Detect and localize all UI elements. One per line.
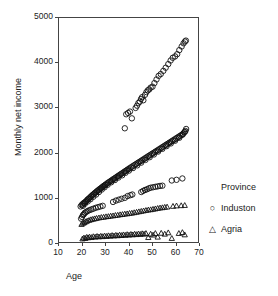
legend-title: Province (221, 182, 256, 192)
y-tick-label: 0 (23, 237, 53, 247)
data-point (180, 176, 185, 181)
x-tick-label: 50 (142, 247, 162, 257)
x-tick-label: 70 (189, 247, 209, 257)
y-tick-label: 1000 (23, 192, 53, 202)
scatter-plot-canvas (59, 18, 200, 244)
y-tick-label: 3000 (23, 101, 53, 111)
legend-label-agria: Agria (221, 224, 242, 234)
legend-label-induston: Induston (221, 203, 256, 213)
x-tick-label: 20 (72, 247, 92, 257)
x-axis-title: Age (66, 271, 82, 281)
x-tick-label: 30 (95, 247, 115, 257)
y-tick-label: 4000 (23, 56, 53, 66)
legend-title-row: Province (207, 176, 256, 197)
legend: Province ○ Induston △ Agria (207, 176, 256, 239)
data-point (130, 192, 135, 197)
chart-figure: Monthly net income Age 01000200030004000… (0, 0, 278, 296)
y-axis-title: Monthly net income (13, 57, 23, 177)
x-tick-label: 10 (48, 247, 68, 257)
circle-marker-icon: ○ (207, 203, 218, 213)
legend-item-induston[interactable]: ○ Induston (207, 197, 256, 218)
legend-item-agria[interactable]: △ Agria (207, 218, 256, 239)
data-point (166, 230, 171, 235)
data-point (129, 116, 134, 121)
y-tick-label: 5000 (23, 11, 53, 21)
plot-area (58, 17, 199, 243)
data-point (169, 236, 174, 241)
series-circle (122, 38, 189, 131)
x-tick-label: 60 (166, 247, 186, 257)
triangle-marker-icon: △ (207, 224, 218, 234)
series-triangle (80, 230, 188, 241)
y-tick-label: 2000 (23, 147, 53, 157)
x-tick-label: 40 (119, 247, 139, 257)
data-point (122, 126, 127, 131)
